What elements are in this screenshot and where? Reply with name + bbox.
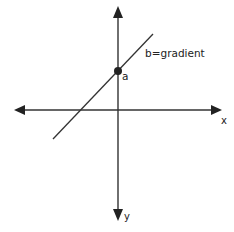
y-axis-top-arrow-icon <box>113 6 123 18</box>
x-axis-label: x <box>221 115 227 126</box>
line-label: b=gradient <box>145 47 205 59</box>
x-axis-right-arrow-icon <box>211 105 222 115</box>
gradient-line <box>53 34 153 139</box>
y-axis <box>113 6 123 221</box>
x-axis-left-arrow-icon <box>14 105 25 115</box>
y-axis-bottom-arrow-icon <box>113 209 123 221</box>
intercept-point-dot <box>114 67 122 75</box>
intercept-label: a <box>122 70 128 82</box>
y-axis-label: y <box>124 211 130 222</box>
diagram-canvas: b=gradient a x y <box>0 0 234 232</box>
axes-diagram: b=gradient a x y <box>0 0 234 232</box>
